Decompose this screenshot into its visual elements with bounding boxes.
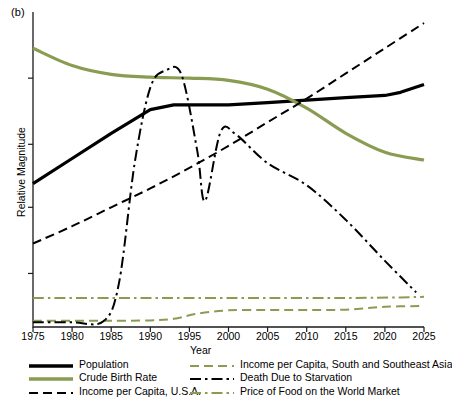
chart-legend: PopulationCrude Birth RateIncome per Cap… [0,357,437,398]
legend-swatch-icon [189,360,235,372]
legend-item[interactable]: Crude Birth Rate [28,371,201,385]
legend-swatch [28,371,74,383]
legend-item-label: Population [79,358,129,370]
x-tick-label: 2000 [209,330,249,342]
series-line [33,84,424,183]
x-tick-label: 1985 [91,330,131,342]
x-tick-label: 1995 [169,330,209,342]
x-tick-label: 1990 [130,330,170,342]
legend-swatch-icon [189,387,235,398]
legend-item-label: Death Due to Starvation [240,371,352,383]
data-series-group [33,23,424,324]
series-line [33,306,424,321]
x-tick-label: 2025 [404,330,444,342]
legend-swatch [28,385,74,397]
x-tick-label: 2005 [248,330,288,342]
legend-swatch [189,371,235,383]
legend-item[interactable]: Income per Capita, South and Southeast A… [189,357,452,371]
legend-swatch-icon [28,373,74,385]
legend-swatch [28,358,74,370]
legend-item-label: Crude Birth Rate [79,371,157,383]
legend-item-label: Income per Capita, South and Southeast A… [240,358,452,370]
legend-item[interactable]: Income per Capita, U.S.A. [28,384,201,398]
axis-spines [33,12,424,327]
legend-item[interactable]: Death Due to Starvation [189,371,452,385]
x-tick-label: 2010 [287,330,327,342]
legend-item-label: Income per Capita, U.S.A. [79,385,201,397]
legend-swatch-icon [28,360,74,372]
series-line [33,297,424,298]
y-axis-label: Relative Magnitude [15,107,27,237]
legend-swatch [189,385,235,397]
axes [28,12,424,332]
legend-item[interactable]: Price of Food on the World Market [189,384,452,398]
legend-item-label: Price of Food on the World Market [240,385,400,397]
x-axis-label: Year [190,344,211,356]
legend-swatch-icon [28,387,74,398]
legend-column-left: PopulationCrude Birth RateIncome per Cap… [28,357,201,398]
legend-column-right: Income per Capita, South and Southeast A… [189,357,452,398]
legend-swatch [189,358,235,370]
legend-swatch-icon [189,373,235,385]
series-line [33,23,424,243]
x-tick-label: 2020 [365,330,405,342]
x-tick-label: 1980 [52,330,92,342]
x-tick-label: 1975 [13,330,53,342]
legend-item[interactable]: Population [28,357,201,371]
x-tick-label: 2015 [326,330,366,342]
